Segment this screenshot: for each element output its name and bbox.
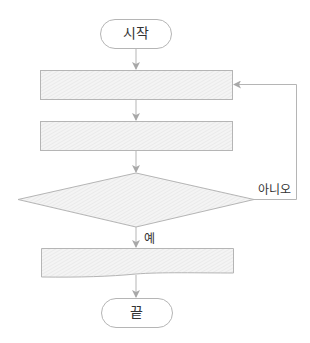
no-branch-label: 아니오 [258,180,291,197]
end-label: 끝 [101,298,172,327]
process-box-2 [41,122,233,151]
document-box [42,249,234,278]
yes-branch-label: 예 [144,229,155,246]
flowchart-canvas [0,0,310,343]
decision-diamond [18,173,254,227]
start-label: 시작 [100,19,171,48]
process-box-1 [41,71,233,100]
